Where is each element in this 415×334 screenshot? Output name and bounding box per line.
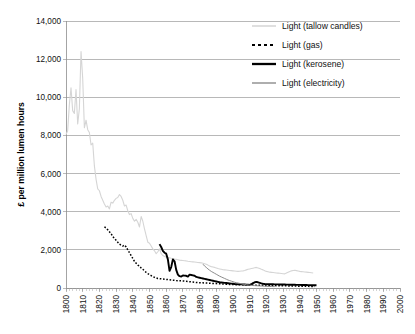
x-tick-label: 1890 [212,295,221,314]
x-axis [66,288,400,292]
legend-label-3: Light (electricity) [282,78,345,88]
x-tick-label: 1950 [313,295,322,314]
x-axis-tick-labels: 1800181018201830184018501860187018801890… [62,295,405,314]
x-tick-label: 1810 [79,295,88,314]
y-tick-label: 6,000 [41,170,62,179]
x-tick-label: 1960 [329,295,338,314]
series-line-0 [66,52,313,274]
x-tick-label: 1970 [346,295,355,314]
y-tick-label: 0 [56,284,61,293]
x-tick-label: 1880 [196,295,205,314]
chart-container: 02,0004,0006,0008,00010,00012,00014,000 … [0,0,415,334]
x-tick-label: 1850 [146,295,155,314]
line-chart: 02,0004,0006,0008,00010,00012,00014,000 … [0,0,415,334]
y-tick-label: 12,000 [36,55,61,64]
legend-label-0: Light (tallow candles) [282,21,363,31]
x-tick-label: 1870 [179,295,188,314]
legend-label-1: Light (gas) [282,40,323,50]
y-tick-label: 14,000 [36,17,61,26]
data-series [66,52,317,287]
x-tick-label: 1900 [229,295,238,314]
y-axis [63,21,66,288]
series-line-2 [160,244,317,285]
x-tick-label: 1830 [112,295,121,314]
x-tick-label: 1940 [296,295,305,314]
y-tick-label: 4,000 [41,208,62,217]
y-tick-label: 2,000 [41,246,62,255]
x-tick-label: 1860 [162,295,171,314]
x-tick-label: 1920 [262,295,271,314]
series-line-1 [104,227,314,287]
y-axis-title: £ per million lumen hours [16,102,26,207]
x-tick-label: 1910 [246,295,255,314]
x-tick-label: 1840 [129,295,138,314]
chart-legend: Light (tallow candles)Light (gas)Light (… [252,21,363,88]
legend-label-2: Light (kerosene) [282,59,344,69]
y-axis-tick-labels: 02,0004,0006,0008,00010,00012,00014,000 [36,17,61,293]
y-tick-label: 10,000 [36,93,61,102]
x-tick-label: 1930 [279,295,288,314]
x-tick-label: 1980 [363,295,372,314]
y-tick-label: 8,000 [41,131,62,140]
x-tick-label: 1990 [379,295,388,314]
x-tick-label: 1800 [62,295,71,314]
y-axis-title-text: £ per million lumen hours [16,102,26,207]
x-tick-label: 2000 [396,295,405,314]
grid-lines [66,21,400,288]
x-tick-label: 1820 [95,295,104,314]
